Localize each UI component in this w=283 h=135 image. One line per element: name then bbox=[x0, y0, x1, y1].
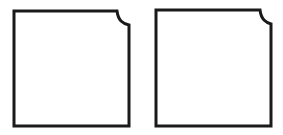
right-notched-square bbox=[154, 8, 273, 129]
notched-square-left-shape bbox=[12, 9, 131, 129]
left-notched-square bbox=[12, 9, 131, 129]
notched-square-right-shape bbox=[154, 8, 273, 129]
